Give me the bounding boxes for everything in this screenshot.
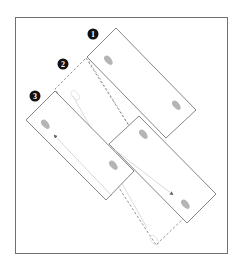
diagram-svg: 1 2 3 xyxy=(0,0,242,280)
marker-3: 3 xyxy=(30,91,41,102)
marker-2: 2 xyxy=(58,59,69,70)
marker-1-label: 1 xyxy=(91,30,95,39)
marker-1: 1 xyxy=(88,29,99,40)
marker-3-label: 3 xyxy=(33,92,37,101)
diagram-canvas: 1 2 3 xyxy=(0,0,242,280)
marker-2-label: 2 xyxy=(61,60,65,69)
